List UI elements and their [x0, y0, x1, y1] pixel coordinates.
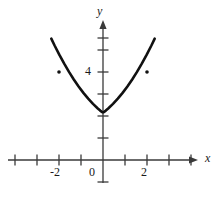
y-axis-label: y [97, 5, 102, 17]
x-tick-label-pos2: 2 [141, 166, 147, 178]
x-axis-label: x [205, 152, 210, 164]
marked-point-left [57, 70, 61, 74]
x-tick-label-zero: 0 [89, 166, 95, 178]
y-axis-arrowhead [99, 20, 106, 29]
plot-canvas [0, 0, 223, 204]
marked-point-right [145, 70, 149, 74]
y-tick-label-four: 4 [85, 65, 91, 77]
graph-figure: y x -2 0 2 4 [0, 0, 223, 204]
x-tick-label-neg2: -2 [50, 166, 60, 178]
